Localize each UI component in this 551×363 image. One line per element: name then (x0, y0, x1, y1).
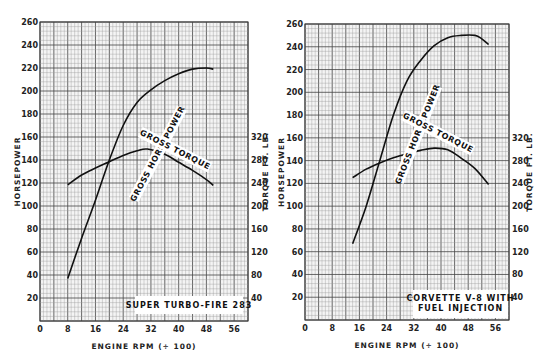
y-tick-label: 260 (21, 18, 38, 27)
x-tick-label: 0 (302, 324, 308, 333)
y-tick-label: 240 (21, 41, 38, 50)
x-tick-label: 48 (463, 324, 475, 333)
y-tick-label: 160 (21, 133, 38, 142)
y2-tick-label: 120 (512, 248, 529, 257)
y-tick-label: 80 (292, 225, 304, 234)
y-tick-label: 40 (27, 271, 39, 280)
x-tick-label: 56 (490, 324, 502, 333)
y-axis-label: HORSEPOWER (13, 137, 22, 207)
x-tick-label: 8 (65, 325, 71, 334)
y-tick-label: 240 (286, 43, 303, 52)
y2-axis-label: TORQUE FT. LB. (261, 132, 270, 211)
x-tick-label: 16 (354, 324, 366, 333)
engine-performance-charts: 0816243240485620406080100120140160180200… (0, 0, 551, 363)
y2-tick-label: 80 (251, 271, 263, 280)
y-tick-label: 200 (286, 88, 303, 97)
chart-title-line: CORVETTE V-8 WITH (406, 294, 514, 303)
y-axis-label: HORSEPOWER (277, 137, 286, 207)
y2-tick-label: 160 (251, 225, 268, 234)
y-tick-label: 260 (286, 20, 303, 29)
chart-title: SUPER TURBO-FIRE 283 (126, 301, 253, 310)
x-tick-label: 24 (381, 324, 393, 333)
x-tick-label: 40 (435, 324, 447, 333)
y-tick-label: 20 (27, 294, 39, 303)
x-tick-label: 24 (118, 325, 130, 334)
y-tick-label: 60 (27, 248, 39, 257)
y2-tick-label: 160 (512, 225, 529, 234)
y-tick-label: 40 (292, 270, 304, 279)
chart-super-turbo-fire-283: 0816243240485620406080100120140160180200… (13, 18, 270, 351)
y-tick-label: 100 (286, 202, 303, 211)
x-tick-label: 48 (201, 325, 213, 334)
y-tick-label: 140 (21, 156, 38, 165)
x-tick-label: 16 (90, 325, 102, 334)
y-tick-label: 180 (286, 111, 303, 120)
y2-tick-label: 40 (251, 294, 263, 303)
x-tick-label: 32 (145, 325, 156, 334)
x-tick-label: 0 (37, 325, 43, 334)
x-axis-label: ENGINE RPM (÷ 100) (91, 342, 196, 351)
x-tick-label: 40 (173, 325, 185, 334)
y-tick-label: 120 (21, 179, 38, 188)
x-axis-label: ENGINE RPM (÷ 100) (354, 341, 459, 350)
y-tick-label: 60 (292, 248, 304, 257)
y-tick-label: 120 (286, 179, 303, 188)
y-tick-label: 220 (286, 66, 303, 75)
y-tick-label: 20 (292, 293, 304, 302)
x-tick-label: 56 (229, 325, 241, 334)
chart-title-line: FUEL INJECTION (418, 304, 503, 313)
y-tick-label: 100 (21, 202, 38, 211)
y-tick-label: 140 (286, 157, 303, 166)
y-tick-label: 180 (21, 110, 38, 119)
y2-tick-label: 80 (512, 270, 524, 279)
x-tick-label: 32 (408, 324, 419, 333)
chart-corvette-fuel-injection: 0816243240485620406080100120140160180200… (277, 20, 534, 350)
y2-axis-label: TORQUE FT. LB. (525, 132, 534, 211)
y-tick-label: 200 (21, 87, 38, 96)
x-tick-label: 8 (329, 324, 335, 333)
y2-tick-label: 120 (251, 248, 268, 257)
y-tick-label: 80 (27, 225, 39, 234)
y-tick-label: 220 (21, 64, 38, 73)
y-tick-label: 160 (286, 134, 303, 143)
